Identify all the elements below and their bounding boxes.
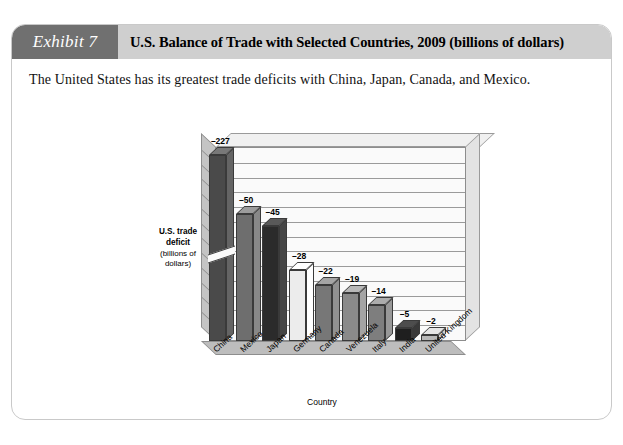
x-axis-category-label: Germany <box>291 323 323 354</box>
bar-chart: U.S. trade deficit (billions of dollars)… <box>12 97 612 419</box>
x-axis-category-label: Italy <box>370 336 388 354</box>
x-axis-category-label: China <box>211 332 234 354</box>
exhibit-title: U.S. Balance of Trade with Selected Coun… <box>130 34 564 51</box>
exhibit-badge: Exhibit 7 <box>12 25 118 59</box>
category-labels: ChinaMexicoJapanGermanyCanadaVenezuelaIt… <box>201 133 521 355</box>
y-axis-title-line4: dollars) <box>147 259 209 270</box>
exhibit-badge-label: Exhibit 7 <box>33 32 98 52</box>
exhibit-card: Exhibit 7 U.S. Balance of Trade with Sel… <box>11 24 612 420</box>
exhibit-header: Exhibit 7 U.S. Balance of Trade with Sel… <box>12 25 611 59</box>
y-axis-title: U.S. trade deficit (billions of dollars) <box>147 227 209 270</box>
x-axis-category-label: India <box>397 334 417 354</box>
y-axis-title-line3: (billions of <box>147 249 209 260</box>
x-axis-category-label: United Kingdom <box>423 306 474 355</box>
y-axis-title-line1: U.S. trade <box>147 227 209 238</box>
x-axis-title: Country <box>172 397 472 407</box>
exhibit-caption: The United States has its greatest trade… <box>29 72 589 88</box>
x-axis-category-label: Mexico <box>238 329 265 355</box>
x-axis-category-label: Japan <box>264 331 288 354</box>
exhibit-title-bar: U.S. Balance of Trade with Selected Coun… <box>118 25 611 59</box>
y-axis-title-line2: deficit <box>147 238 209 249</box>
